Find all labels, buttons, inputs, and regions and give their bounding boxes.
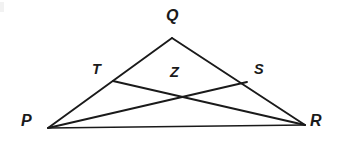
point-label-T: T xyxy=(92,62,101,77)
segment-PR xyxy=(48,125,305,128)
segment-QR xyxy=(172,38,305,125)
vertex-label-R: R xyxy=(310,113,322,129)
cevian-TR xyxy=(113,81,305,125)
point-label-S: S xyxy=(254,62,264,77)
point-label-Z: Z xyxy=(170,65,179,80)
vertex-label-Q: Q xyxy=(166,8,178,24)
vertex-label-P: P xyxy=(21,113,32,129)
geometry-figure: Q T Z S P R xyxy=(0,0,339,150)
